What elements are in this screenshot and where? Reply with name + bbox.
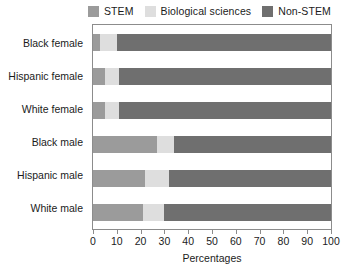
x-axis-title: Percentages — [92, 252, 332, 264]
legend-item-stem: STEM — [88, 6, 134, 17]
y-axis-label-0: Black female — [23, 35, 83, 52]
x-tick-label: 40 — [182, 235, 194, 247]
x-tick-mark — [331, 230, 332, 234]
bar-row — [93, 34, 331, 51]
bar-row — [93, 170, 331, 187]
plot-area — [92, 24, 332, 230]
bar-row — [93, 102, 331, 119]
x-tick-mark — [93, 230, 94, 234]
x-tick-label: 60 — [230, 235, 242, 247]
y-axis-labels: Black female Hispanic female White femal… — [0, 24, 88, 230]
bar-segment-non-stem — [174, 136, 331, 153]
bar-segment-non-stem — [169, 170, 331, 187]
y-axis-label-5: White male — [30, 200, 83, 217]
legend-swatch-biological-sciences — [145, 6, 156, 17]
bar-row — [93, 136, 331, 153]
y-axis-label-2: White female — [22, 101, 83, 118]
bar-segment-biological-sciences — [100, 34, 117, 51]
legend-item-non-stem: Non-STEM — [262, 6, 331, 17]
x-tick-label: 70 — [254, 235, 266, 247]
y-axis-label-3: Black male — [32, 134, 83, 151]
legend-swatch-stem — [88, 6, 99, 17]
bar-segment-non-stem — [164, 204, 331, 221]
bar-segment-stem — [93, 34, 100, 51]
chart-legend: STEM Biological sciences Non-STEM — [88, 3, 350, 19]
bar-segment-biological-sciences — [145, 170, 169, 187]
bar-row — [93, 68, 331, 85]
legend-item-biological-sciences: Biological sciences — [145, 6, 252, 17]
legend-label-biological-sciences: Biological sciences — [161, 6, 252, 17]
bar-segment-stem — [93, 102, 105, 119]
x-tick-label: 80 — [278, 235, 290, 247]
x-tick-label: 10 — [111, 235, 123, 247]
x-tick-mark — [260, 230, 261, 234]
bar-segment-stem — [93, 136, 157, 153]
bar-segment-stem — [93, 204, 143, 221]
x-tick-label: 100 — [322, 235, 340, 247]
x-tick-mark — [141, 230, 142, 234]
x-tick-mark — [212, 230, 213, 234]
bar-segment-biological-sciences — [105, 102, 119, 119]
x-tick-mark — [164, 230, 165, 234]
legend-swatch-non-stem — [262, 6, 273, 17]
x-tick-mark — [117, 230, 118, 234]
y-axis-label-1: Hispanic female — [8, 68, 83, 85]
bar-segment-stem — [93, 68, 105, 85]
bar-row — [93, 204, 331, 221]
bar-segment-biological-sciences — [157, 136, 174, 153]
bar-segment-biological-sciences — [105, 68, 119, 85]
stacked-bar-chart: STEM Biological sciences Non-STEM Black … — [0, 0, 353, 274]
bar-segment-non-stem — [119, 68, 331, 85]
bar-segment-biological-sciences — [143, 204, 164, 221]
legend-label-non-stem: Non-STEM — [278, 6, 331, 17]
x-tick-mark — [307, 230, 308, 234]
bar-segment-stem — [93, 170, 145, 187]
x-tick-label: 90 — [301, 235, 313, 247]
legend-label-stem: STEM — [104, 6, 134, 17]
x-tick-mark — [283, 230, 284, 234]
x-tick-label: 30 — [159, 235, 171, 247]
bar-segment-non-stem — [119, 102, 331, 119]
x-tick-mark — [188, 230, 189, 234]
x-tick-label: 0 — [90, 235, 96, 247]
x-axis-ticks: 0102030405060708090100 — [92, 230, 332, 250]
bar-segment-non-stem — [117, 34, 331, 51]
x-tick-mark — [236, 230, 237, 234]
x-tick-label: 20 — [135, 235, 147, 247]
x-tick-label: 50 — [206, 235, 218, 247]
y-axis-label-4: Hispanic male — [17, 167, 83, 184]
bars-layer — [93, 25, 331, 229]
